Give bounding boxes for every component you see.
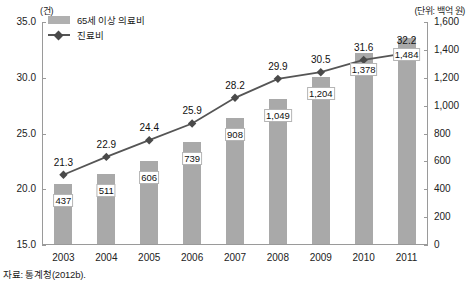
line-marker-diamond <box>102 153 110 161</box>
x-axis-tick-label: 2009 <box>310 252 332 263</box>
bar-value-label: 739 <box>182 152 202 165</box>
right-tick-label: 0 <box>434 240 440 250</box>
right-tick <box>424 50 428 51</box>
legend-item-65plus-medical-cost: 65세 이상 의료비 <box>48 12 145 27</box>
legend-item-treatment-cost: 진료비 <box>48 27 145 42</box>
bar-value-label: 1,049 <box>264 109 292 122</box>
x-axis-tick-label: 2005 <box>138 252 160 263</box>
x-axis-tick-label: 2003 <box>52 252 74 263</box>
left-tick <box>42 78 46 79</box>
right-tick <box>424 78 428 79</box>
right-tick-label: 1,600 <box>434 17 459 27</box>
right-tick <box>424 22 428 23</box>
left-tick-label: 15.0 <box>17 240 36 250</box>
right-tick-label: 1,200 <box>434 73 459 83</box>
left-tick <box>42 245 46 246</box>
line-value-label: 31.6 <box>354 43 373 53</box>
x-axis-tick-label: 2006 <box>181 252 203 263</box>
bar <box>54 184 72 244</box>
bar-value-label: 1,484 <box>393 48 421 61</box>
line-value-label: 28.2 <box>225 81 244 91</box>
bar-value-label: 1,204 <box>307 87 335 100</box>
left-tick <box>42 134 46 135</box>
right-tick-label: 1,400 <box>434 45 459 55</box>
right-tick <box>424 161 428 162</box>
bar <box>355 53 373 244</box>
right-tick-label: 400 <box>434 184 451 194</box>
left-tick <box>42 189 46 190</box>
line-marker-diamond <box>145 136 153 144</box>
line-marker-diamond <box>59 171 67 179</box>
chart-legend: 65세 이상 의료비 진료비 <box>48 12 145 42</box>
bottom-axis-line <box>42 244 428 245</box>
bar-value-label: 437 <box>54 194 74 207</box>
line-marker-diamond <box>231 94 239 102</box>
left-tick <box>42 22 46 23</box>
line-value-label: 30.5 <box>311 55 330 65</box>
right-tick <box>424 245 428 246</box>
line-marker-diamond <box>317 68 325 76</box>
legend-label-65plus-medical-cost: 65세 이상 의료비 <box>77 13 145 27</box>
line-value-label: 32.2 <box>397 36 416 46</box>
x-axis-tick-label: 2007 <box>224 252 246 263</box>
line-marker-diamond <box>188 119 196 127</box>
right-tick <box>424 217 428 218</box>
bar-swatch-icon <box>48 16 70 24</box>
left-tick-label: 35.0 <box>17 17 36 27</box>
line-diamond-swatch-icon <box>48 31 70 39</box>
plot-area: 15.020.025.030.035.0 02004006008001,0001… <box>42 22 428 245</box>
right-tick-label: 600 <box>434 156 451 166</box>
line-marker-diamond <box>274 75 282 83</box>
chart-figure: (건) (단위: 백억 원) 15.020.025.030.035.0 0200… <box>0 0 469 285</box>
x-axis-tick-label: 2004 <box>95 252 117 263</box>
line-value-label: 25.9 <box>182 106 201 116</box>
line-value-label: 24.4 <box>139 123 158 133</box>
right-tick-label: 1,000 <box>434 101 459 111</box>
line-value-label: 21.3 <box>54 158 73 168</box>
right-tick-label: 800 <box>434 129 451 139</box>
bar-value-label: 908 <box>225 128 245 141</box>
line-value-label: 22.9 <box>97 140 116 150</box>
legend-label-treatment-cost: 진료비 <box>77 28 103 42</box>
x-axis-tick-label: 2011 <box>396 252 418 263</box>
right-tick <box>424 106 428 107</box>
bar-value-label: 606 <box>139 171 159 184</box>
bar <box>398 38 416 244</box>
left-tick-label: 25.0 <box>17 129 36 139</box>
bar-value-label: 1,378 <box>350 63 378 76</box>
right-tick <box>424 134 428 135</box>
right-tick-label: 200 <box>434 212 451 222</box>
left-tick-label: 30.0 <box>17 73 36 83</box>
source-note: 자료: 통계청(2012b). <box>3 267 86 281</box>
x-axis-tick-label: 2010 <box>353 252 375 263</box>
right-tick <box>424 189 428 190</box>
bar <box>312 77 330 244</box>
x-axis-tick-label: 2008 <box>267 252 289 263</box>
line-value-label: 29.9 <box>268 62 287 72</box>
bar-value-label: 511 <box>97 184 116 197</box>
left-tick-label: 20.0 <box>17 184 36 194</box>
